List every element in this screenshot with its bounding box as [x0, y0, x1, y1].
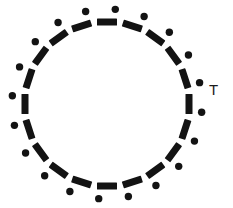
tick-dot-19 — [82, 8, 89, 15]
tick-dot-17 — [32, 38, 39, 45]
tick-dot-15 — [9, 92, 16, 99]
tick-dot-11 — [66, 188, 73, 195]
figure-background — [0, 0, 233, 208]
tick-dash-15 — [22, 94, 29, 114]
annotation-label-t: T — [209, 81, 218, 98]
figure-canvas: T — [0, 0, 233, 208]
tick-dot-13 — [22, 149, 29, 156]
tick-dash-0 — [97, 19, 117, 26]
tick-dash-10 — [97, 183, 117, 190]
tick-dot-12 — [41, 172, 48, 179]
tick-dot-14 — [11, 122, 18, 129]
tick-dot-18 — [54, 19, 61, 26]
circular-dash-diagram: T — [0, 0, 233, 208]
tick-dot-0 — [112, 6, 119, 13]
tick-dot-9 — [125, 193, 132, 200]
tick-dot-1 — [140, 13, 147, 20]
tick-dot-8 — [152, 182, 159, 189]
tick-dot-3 — [185, 51, 192, 58]
tick-dash-5 — [186, 94, 193, 114]
tick-dot-6 — [191, 137, 198, 144]
tick-dot-7 — [175, 163, 182, 170]
tick-dot-5 — [198, 109, 205, 116]
annotation-group: T — [209, 81, 218, 98]
tick-dot-16 — [16, 63, 23, 70]
tick-dot-2 — [166, 29, 173, 36]
tick-dot-10 — [95, 195, 102, 202]
tick-dot-4 — [196, 79, 203, 86]
